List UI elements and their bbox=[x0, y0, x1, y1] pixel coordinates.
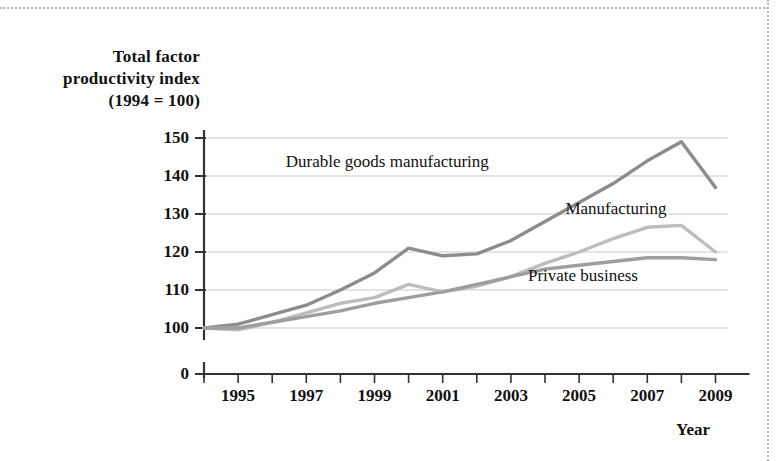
y-tick-label: 0 bbox=[119, 365, 189, 382]
y-tick-label: 120 bbox=[119, 243, 189, 260]
x-tick-label: 2007 bbox=[617, 387, 677, 404]
chart-page: Total factor productivity index (1994 = … bbox=[0, 0, 779, 461]
y-tick-label: 150 bbox=[119, 129, 189, 146]
x-tick-label: 2003 bbox=[481, 387, 541, 404]
series-label-1: Manufacturing bbox=[565, 199, 666, 219]
series-label-0: Durable goods manufacturing bbox=[286, 152, 489, 172]
x-tick-label: 2009 bbox=[686, 387, 746, 404]
y-tick-label: 140 bbox=[119, 167, 189, 184]
x-tick-label: 1999 bbox=[345, 387, 405, 404]
y-tick-label: 130 bbox=[119, 205, 189, 222]
y-tick-label: 110 bbox=[119, 281, 189, 298]
x-tick-label: 2001 bbox=[413, 387, 473, 404]
x-tick-label: 2005 bbox=[549, 387, 609, 404]
x-tick-label: 1995 bbox=[208, 387, 268, 404]
series-line-2 bbox=[204, 258, 716, 328]
series-label-2: Private business bbox=[528, 266, 638, 286]
series-line-1 bbox=[204, 225, 716, 330]
x-tick-label: 1997 bbox=[276, 387, 336, 404]
y-tick-label: 100 bbox=[119, 319, 189, 336]
